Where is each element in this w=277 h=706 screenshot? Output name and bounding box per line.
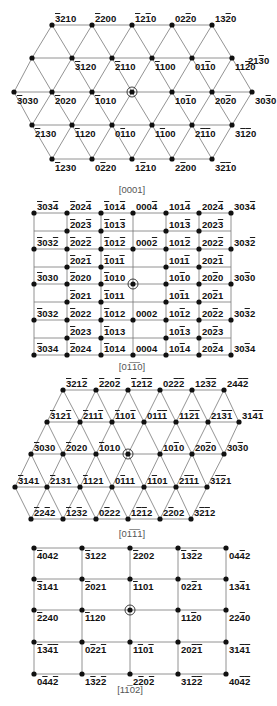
- spot-index-label: 2202: [99, 378, 120, 389]
- diffraction-spot: [141, 419, 146, 424]
- spot-index-label: 3210: [55, 13, 76, 24]
- spot-index-label: 0004: [136, 201, 158, 212]
- diffraction-spot: [129, 156, 134, 161]
- diffraction-spot: [223, 576, 228, 581]
- diffraction-spot: [196, 246, 201, 251]
- spot-index-label: 2240: [37, 612, 58, 623]
- diffraction-spot: [188, 516, 193, 521]
- diffraction-spot: [249, 89, 254, 94]
- spot-index-label: 3034: [37, 201, 59, 212]
- diffraction-spot: [98, 210, 103, 215]
- spot-index-label: 3032: [37, 308, 58, 319]
- diffraction-spot: [229, 55, 234, 60]
- spot-index-label: 2021: [70, 255, 92, 266]
- spot-index-label: 4042: [37, 550, 58, 561]
- diffraction-spot: [157, 387, 162, 392]
- diffraction-spot: [93, 451, 98, 456]
- diffraction-spot: [228, 281, 233, 286]
- diffraction-spot: [223, 607, 228, 612]
- spot-index-label: 1010: [99, 442, 120, 453]
- spot-index-label: 2111: [83, 410, 104, 421]
- caption-zone-1-102: [11̅02]: [117, 684, 143, 695]
- spot-index-label: 2131: [211, 410, 233, 421]
- spot-index-label: 1012: [104, 308, 125, 319]
- spot-index-label: 1014: [104, 201, 126, 212]
- spot-index-label: 1210: [135, 13, 156, 24]
- diffraction-spot: [169, 89, 174, 94]
- diffraction-figure: 3210220012100220132031202110110001101120…: [0, 0, 277, 706]
- spot-index-label: 2020: [55, 95, 76, 106]
- spot-index-label: 1232: [195, 378, 216, 389]
- spot-index-label: 2442: [227, 378, 248, 389]
- spot-index-label: 3034: [234, 343, 256, 354]
- diffraction-spot: [12, 484, 17, 489]
- diffraction-spot: [196, 352, 201, 357]
- spot-index-label: 3120: [75, 61, 96, 72]
- spot-index-label: 2022: [202, 237, 223, 248]
- spot-index-label: 0110: [195, 61, 216, 72]
- diffraction-spot: [169, 156, 174, 161]
- diffraction-spot: [93, 516, 98, 521]
- diffraction-spot: [109, 484, 114, 489]
- spot-index-label: 0221: [181, 581, 203, 592]
- diffraction-spot: [127, 639, 132, 644]
- diffraction-spot: [49, 89, 54, 94]
- diffraction-spot: [228, 352, 233, 357]
- spot-index-label: 1341: [229, 581, 251, 592]
- diffraction-spot: [163, 335, 168, 340]
- spot-index-label: 1100: [155, 61, 176, 72]
- diffraction-spot: [31, 281, 36, 286]
- spot-index-label: 1101: [115, 410, 136, 421]
- diffraction-spot: [89, 89, 94, 94]
- diffraction-spot: [173, 484, 178, 489]
- spot-index-label: 1121: [179, 410, 200, 421]
- diffraction-spot: [98, 281, 103, 286]
- diffraction-spot: [60, 451, 65, 456]
- spot-index-label: 3032: [234, 308, 255, 319]
- diffraction-spot: [31, 576, 36, 581]
- spot-index-label: 3141: [242, 410, 264, 421]
- spot-index-label: 1322: [85, 676, 106, 687]
- spot-index-label: 1010: [163, 442, 184, 453]
- diffraction-spot: [169, 22, 174, 27]
- spot-index-label: 0222: [163, 378, 184, 389]
- diffraction-spot: [31, 671, 36, 676]
- spot-index-label: 2022: [70, 237, 91, 248]
- spot-index-label: 1014: [104, 343, 126, 354]
- spot-index-label: 2202: [133, 550, 154, 561]
- spot-index-label: 0110: [115, 128, 136, 139]
- spot-index-label: 1320: [215, 13, 236, 24]
- spot-index-label: 1011: [169, 290, 190, 301]
- diffraction-spot: [196, 228, 201, 233]
- spot-index-label: 3121: [210, 475, 232, 486]
- diffraction-spot: [64, 281, 69, 286]
- diffraction-spot: [77, 419, 82, 424]
- diffraction-spot: [98, 299, 103, 304]
- diffraction-spot: [98, 317, 103, 322]
- diffraction-spot: [228, 246, 233, 251]
- diffraction-spot: [196, 317, 201, 322]
- spot-index-label: 1120: [75, 128, 96, 139]
- diffraction-spot: [196, 335, 201, 340]
- diffraction-spot: [109, 122, 114, 127]
- spot-index-label: 1011: [169, 255, 190, 266]
- spot-index-label: 2111: [179, 475, 200, 486]
- spot-index-label: 2021: [85, 581, 107, 592]
- spot-index-label: 1010: [175, 95, 196, 106]
- spot-index-label: 1341: [37, 644, 59, 655]
- diffraction-spot: [223, 639, 228, 644]
- diffraction-spot: [221, 387, 226, 392]
- spot-index-label: 3210: [215, 162, 236, 173]
- spot-index-label: 0111: [115, 475, 136, 486]
- diffraction-spot: [130, 210, 135, 215]
- spot-index-label: 2022: [70, 308, 91, 319]
- diffraction-spot: [125, 516, 130, 521]
- diffraction-spot: [49, 22, 54, 27]
- diffraction-spot: [98, 246, 103, 251]
- diffraction-spot: [163, 317, 168, 322]
- transmitted-beam-spot: [130, 281, 135, 286]
- spot-index-label: 2021: [70, 290, 92, 301]
- spot-index-label: 2130: [248, 55, 269, 66]
- spot-index-label: 2021: [202, 255, 224, 266]
- diffraction-spot: [130, 352, 135, 357]
